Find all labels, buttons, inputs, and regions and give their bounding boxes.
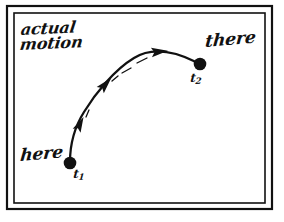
t2-label: t2 bbox=[190, 71, 202, 86]
tick-1 bbox=[86, 110, 89, 117]
diagram-canvas: actualmotion here there t1 t2 bbox=[0, 0, 284, 222]
curve-tick-marks bbox=[86, 58, 147, 117]
arrowhead-group bbox=[73, 46, 169, 133]
end-point-dot bbox=[194, 58, 207, 71]
tick-2 bbox=[112, 76, 118, 81]
actual-motion-label: actualmotion bbox=[18, 19, 86, 53]
tick-3 bbox=[122, 68, 131, 73]
t2-subscript: 2 bbox=[195, 76, 202, 86]
t1-subscript: 1 bbox=[78, 172, 85, 182]
actual-motion-line2: motion bbox=[19, 35, 84, 54]
there-label: there bbox=[204, 29, 256, 51]
tick-4 bbox=[137, 58, 147, 63]
actual-motion-curve bbox=[70, 52, 196, 162]
here-label: here bbox=[19, 143, 63, 164]
t1-label: t1 bbox=[73, 167, 85, 182]
